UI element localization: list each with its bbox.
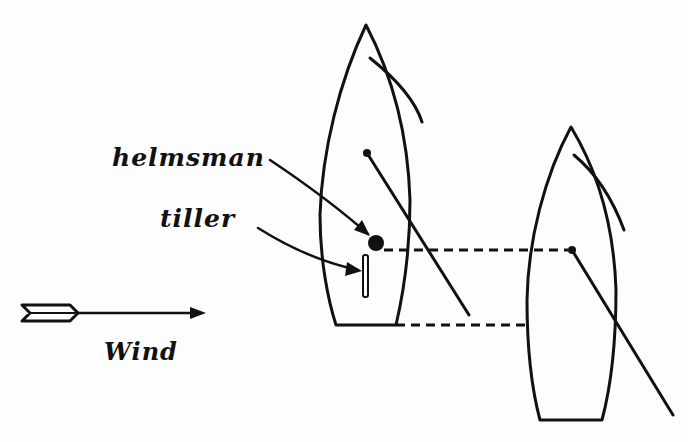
helmsman-arrowhead-icon: [354, 220, 370, 236]
wind-arrow-icon: [22, 305, 206, 321]
label-arrows: [258, 160, 370, 276]
right-boat-hull: [527, 127, 616, 420]
tiller: [363, 255, 368, 297]
right-boat-boom: [572, 250, 673, 415]
dashed-connectors: [384, 250, 568, 325]
left-boat: [320, 25, 469, 325]
tiller-pointer: [258, 228, 358, 270]
diagram-canvas: [0, 0, 688, 442]
wind-label: Wind: [104, 337, 178, 366]
tiller-arrowhead-icon: [345, 262, 362, 276]
helmsman-label: helmsman: [112, 143, 265, 172]
tiller-label: tiller: [160, 204, 235, 233]
helmsman-dot: [368, 235, 384, 251]
left-boat-boom: [367, 153, 469, 315]
right-boat: [527, 127, 673, 420]
left-boat-jib: [370, 58, 422, 122]
left-boat-hull: [320, 25, 410, 325]
sailing-diagram: helmsman tiller Wind: [0, 0, 688, 442]
